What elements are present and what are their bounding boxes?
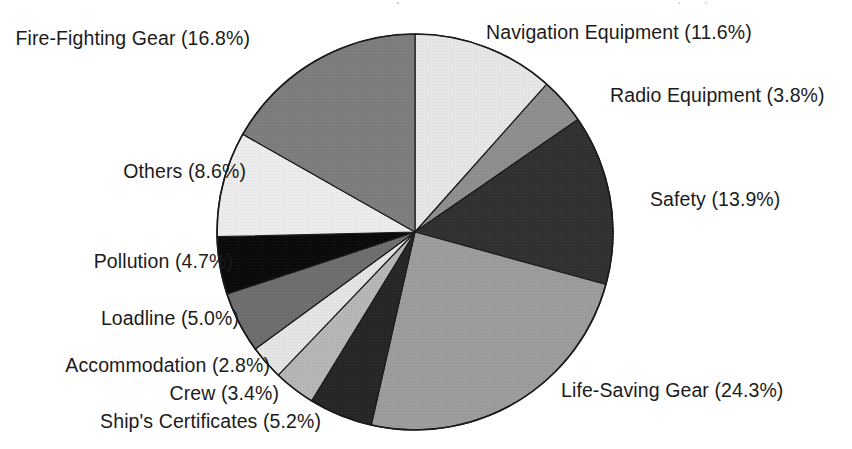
slice-label-others: Others (8.6%)	[123, 161, 246, 183]
slice-label-navigation-equipment: Navigation Equipment (11.6%)	[486, 22, 752, 44]
slice-label-safety: Safety (13.9%)	[650, 189, 780, 211]
slice-label-life-saving-gear: Life-Saving Gear (24.3%)	[561, 380, 783, 402]
slice-label-ships-certificates: Ship's Certificates (5.2%)	[100, 411, 321, 433]
slice-label-accommodation: Accommodation (2.8%)	[65, 355, 270, 377]
halftone-texture	[217, 34, 613, 430]
slice-label-fire-fighting-gear: Fire-Fighting Gear (16.8%)	[15, 28, 250, 50]
slice-label-crew: Crew (3.4%)	[170, 383, 279, 405]
slice-label-pollution: Pollution (4.7%)	[94, 251, 233, 273]
slice-label-radio-equipment: Radio Equipment (3.8%)	[610, 85, 825, 107]
slice-label-loadline: Loadline (5.0%)	[101, 308, 239, 330]
pie-chart-figure: Navigation Equipment (11.6%)Radio Equipm…	[0, 0, 852, 449]
